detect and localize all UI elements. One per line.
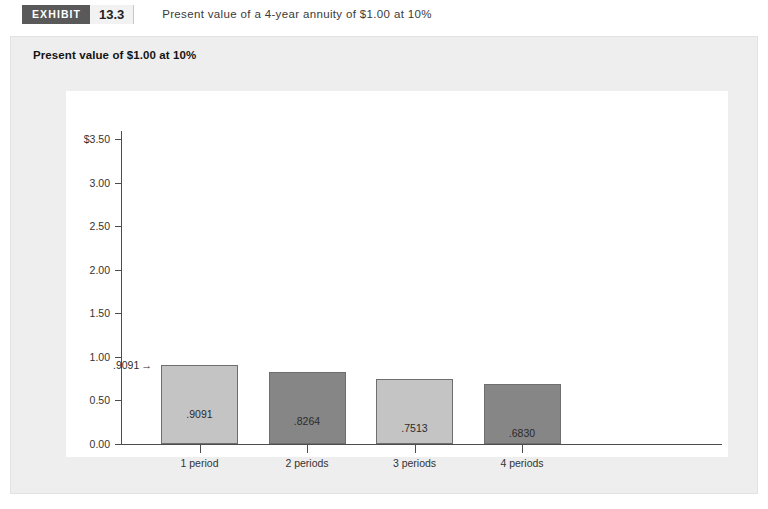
y-axis-tick — [115, 313, 122, 314]
y-axis-label: 2.00 — [90, 264, 110, 276]
y-axis-label: 2.50 — [90, 220, 110, 232]
plot-area: .9091.8264.7513.6830 $3.503.002.502.001.… — [66, 91, 728, 457]
exhibit-badge: EXHIBIT — [22, 5, 90, 24]
bar-value-label: .6830 — [485, 427, 560, 439]
y-axis-tick — [115, 139, 122, 140]
bar-chart: .9091.8264.7513.6830 $3.503.002.502.001.… — [66, 91, 728, 457]
x-axis-tick — [415, 445, 416, 453]
x-axis-label: 1 period — [181, 457, 219, 469]
y-axis-tick — [115, 357, 122, 358]
bars-layer: .9091.8264.7513.6830 — [66, 91, 728, 444]
bar: .8264 — [269, 372, 346, 444]
x-axis-tick — [522, 445, 523, 453]
arrow-right-icon: → — [141, 360, 152, 370]
bar: .7513 — [376, 379, 453, 444]
bar: .9091 — [161, 365, 238, 444]
bar-annotation: .9091→ — [113, 359, 152, 371]
x-axis-tick — [307, 445, 308, 453]
exhibit-header: EXHIBIT 13.3 Present value of a 4-year a… — [0, 0, 768, 28]
y-axis-label: 1.00 — [90, 351, 110, 363]
y-axis-label: 3.00 — [90, 177, 110, 189]
x-axis-line — [121, 444, 722, 445]
y-axis-tick — [115, 444, 122, 445]
chart-panel: Present value of $1.00 at 10% .9091.8264… — [10, 36, 758, 494]
bar-annotation-text: .9091 — [113, 359, 139, 371]
y-axis-label: 0.50 — [90, 394, 110, 406]
y-axis-label: 1.50 — [90, 307, 110, 319]
bar: .6830 — [484, 384, 561, 444]
x-axis-label: 4 periods — [500, 457, 543, 469]
y-axis-tick — [115, 400, 122, 401]
y-axis-tick — [115, 183, 122, 184]
y-axis-tick — [115, 226, 122, 227]
y-axis-tick — [115, 270, 122, 271]
x-axis-label: 3 periods — [393, 457, 436, 469]
x-axis-label: 2 periods — [285, 457, 328, 469]
x-axis-tick — [200, 445, 201, 453]
bar-value-label: .9091 — [162, 408, 237, 420]
y-axis-label: $3.50 — [84, 133, 110, 145]
y-axis-label: 0.00 — [90, 438, 110, 450]
chart-panel-title: Present value of $1.00 at 10% — [33, 49, 196, 61]
exhibit-page: EXHIBIT 13.3 Present value of a 4-year a… — [0, 0, 768, 509]
exhibit-caption: Present value of a 4-year annuity of $1.… — [162, 8, 432, 20]
bar-value-label: .7513 — [377, 422, 452, 434]
exhibit-number: 13.3 — [90, 5, 134, 24]
bar-value-label: .8264 — [270, 415, 345, 427]
